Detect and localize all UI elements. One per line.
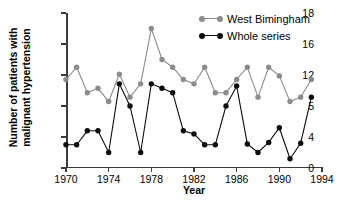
chart-legend: West BiminghamWhole series: [198, 10, 346, 44]
data-point: [117, 72, 122, 77]
data-point: [202, 65, 207, 70]
data-point: [287, 156, 292, 161]
data-point: [170, 65, 175, 70]
data-point: [223, 103, 228, 108]
data-point: [106, 150, 111, 155]
data-point: [309, 77, 314, 82]
data-point: [127, 103, 132, 108]
data-point: [138, 81, 143, 86]
data-point: [245, 65, 250, 70]
data-point: [106, 99, 111, 104]
data-point: [117, 81, 122, 86]
data-point: [74, 142, 79, 147]
data-point: [266, 65, 271, 70]
y-axis-title-line1: Number of patients with: [8, 28, 21, 148]
data-point: [85, 90, 90, 95]
legend-item[interactable]: Whole series: [198, 27, 346, 44]
data-point: [191, 131, 196, 136]
data-point: [202, 142, 207, 147]
legend-label: West Bimingham: [227, 13, 310, 25]
data-point: [149, 26, 154, 31]
data-point: [298, 94, 303, 99]
data-point: [159, 57, 164, 62]
legend-marker-icon: [198, 30, 224, 42]
data-point: [213, 142, 218, 147]
chart-container: Number of patients with malignant hypert…: [0, 0, 350, 205]
data-point: [277, 73, 282, 78]
data-point: [213, 90, 218, 95]
data-point: [255, 150, 260, 155]
y-axis-title: Number of patients with malignant hypert…: [0, 0, 40, 175]
data-point: [266, 140, 271, 145]
data-point: [159, 86, 164, 91]
data-point: [234, 77, 239, 82]
data-point: [234, 83, 239, 88]
data-point: [191, 81, 196, 86]
y-axis-title-line2: malignant hypertension: [20, 28, 33, 148]
data-point: [85, 128, 90, 133]
x-axis-title: Year: [66, 184, 322, 196]
data-point: [223, 90, 228, 95]
data-point: [63, 77, 68, 82]
data-point: [95, 128, 100, 133]
legend-item[interactable]: West Bimingham: [198, 10, 346, 27]
legend-label: Whole series: [227, 30, 291, 42]
data-point: [149, 81, 154, 86]
data-point: [138, 150, 143, 155]
data-point: [255, 94, 260, 99]
data-point: [181, 128, 186, 133]
data-point: [74, 65, 79, 70]
data-point: [181, 77, 186, 82]
data-point: [170, 90, 175, 95]
data-point: [245, 141, 250, 146]
legend-marker-icon: [198, 13, 224, 25]
data-point: [63, 142, 68, 147]
data-point: [298, 141, 303, 146]
series-2: [63, 81, 314, 161]
data-point: [95, 86, 100, 91]
data-point: [309, 94, 314, 99]
data-point: [287, 99, 292, 104]
data-point: [127, 94, 132, 99]
data-point: [277, 125, 282, 130]
